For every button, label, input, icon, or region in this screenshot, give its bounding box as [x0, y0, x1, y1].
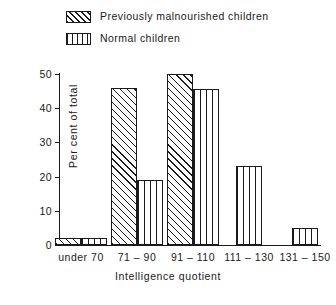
y-axis-title: Per cent of total — [67, 74, 79, 178]
y-tick-mark — [55, 108, 59, 109]
bar-normal — [137, 180, 163, 245]
y-tick-label: 40 — [12, 103, 52, 114]
legend-label-malnourished: Previously malnourished children — [100, 11, 268, 22]
vertical-stripe-swatch-icon — [66, 33, 91, 45]
x-category-label: 131 – 150 — [260, 252, 336, 263]
y-tick-mark — [55, 245, 59, 246]
x-axis-line — [59, 245, 321, 246]
bar-normal — [292, 228, 318, 245]
y-tick-mark — [55, 177, 59, 178]
bar-normal — [236, 166, 262, 245]
y-tick-label: 30 — [12, 137, 52, 148]
bar-malnourished — [111, 88, 137, 245]
y-tick-label: 50 — [12, 69, 52, 80]
legend-label-normal: Normal children — [100, 33, 180, 44]
y-tick-label: 10 — [12, 206, 52, 217]
y-tick-label: 20 — [12, 172, 52, 183]
bar-chart: Previously malnourished children Normal … — [0, 0, 336, 305]
bar-normal — [81, 238, 107, 245]
diagonal-hatch-swatch-icon — [66, 11, 91, 23]
y-tick-label: 0 — [12, 240, 52, 251]
x-axis-title: Intelligence quotient — [0, 271, 336, 282]
bar-normal — [193, 89, 219, 245]
legend-item-normal: Normal children — [66, 30, 268, 47]
plot-area: Per cent of total 01020304050 — [59, 74, 321, 245]
chart-legend: Previously malnourished children Normal … — [66, 8, 268, 52]
bar-malnourished — [167, 74, 193, 245]
legend-item-malnourished: Previously malnourished children — [66, 8, 268, 25]
bar-malnourished — [55, 238, 81, 245]
y-tick-mark — [55, 74, 59, 75]
y-tick-mark — [55, 211, 59, 212]
y-tick-mark — [55, 142, 59, 143]
